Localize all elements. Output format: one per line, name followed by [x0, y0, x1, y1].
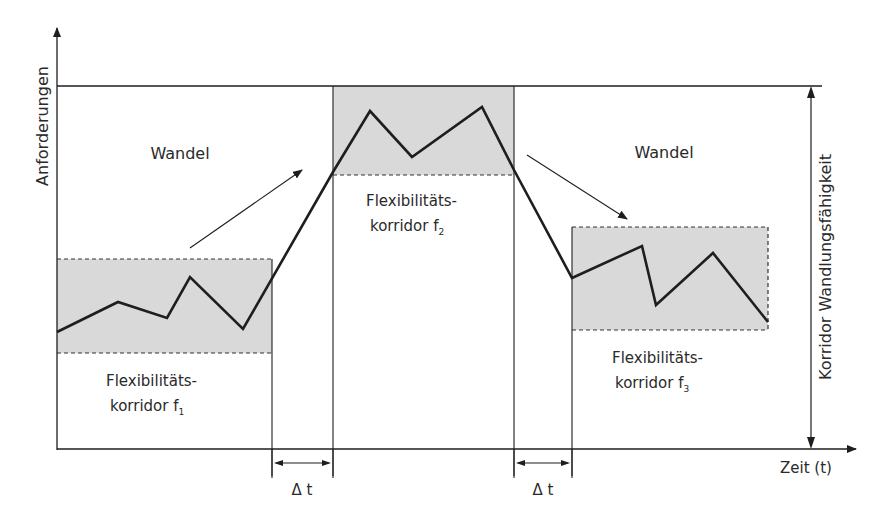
- change-arrow-right: [527, 155, 627, 219]
- y-axis-label: Anforderungen: [33, 66, 52, 186]
- change-label-right: Wandel: [634, 143, 693, 162]
- change-arrow-left: [190, 170, 302, 248]
- delta-t-arrow-2: [514, 449, 572, 476]
- svg-text:Flexibilitäts-: Flexibilitäts-: [106, 372, 197, 390]
- delta-t-label-1: Δ t: [292, 481, 313, 499]
- svg-text:korridor f2: korridor f2: [370, 217, 444, 237]
- corridor-f1-label: Flexibilitäts- korridor f1: [106, 372, 197, 417]
- x-axis-label: Zeit (t): [780, 459, 832, 477]
- delta-t-arrow-1: [272, 449, 333, 476]
- corridor-f3-label: Flexibilitäts- korridor f3: [612, 349, 703, 394]
- corridor-f1-region: [57, 259, 272, 353]
- svg-text:korridor f1: korridor f1: [110, 397, 184, 417]
- flexibility-transformability-diagram: Anforderungen Zeit (t) Korridor Wandlung…: [0, 0, 885, 522]
- change-label-left: Wandel: [150, 144, 209, 163]
- svg-text:Flexibilitäts-: Flexibilitäts-: [366, 192, 457, 210]
- svg-text:Flexibilitäts-: Flexibilitäts-: [612, 349, 703, 367]
- corridor-f3-region: [572, 227, 768, 330]
- svg-text:korridor f3: korridor f3: [615, 374, 689, 394]
- corridor-f2-label: Flexibilitäts- korridor f2: [366, 192, 457, 237]
- right-axis-label: Korridor Wandlungsfähigkeit: [816, 154, 835, 380]
- transformability-corridor-arrow: [807, 86, 815, 449]
- corridor-f2-region: [333, 86, 514, 175]
- delta-t-label-2: Δ t: [533, 481, 554, 499]
